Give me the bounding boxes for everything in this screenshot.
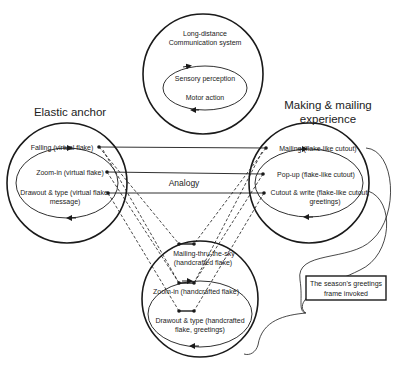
right-circle: Making & mailing experience Mailing (fla… <box>249 99 372 243</box>
callout-line1: The season's greetings <box>310 280 383 288</box>
right-item-cutout: Cutout & write (flake-like cutout, <box>271 189 370 197</box>
bottom-circle: Mailing-thru-the-sky (handcrafted flake)… <box>142 241 258 357</box>
left-circle: Elastic anchor Falling (virtual flake) Z… <box>7 106 127 243</box>
bottom-item-drawout: Drawout & type (handcrafted <box>155 317 244 325</box>
bottom-node-drawout-icon <box>177 309 196 313</box>
left-item-drawout: Drawout & type (virtual flake, <box>20 189 110 197</box>
top-title-line2: Communication system <box>169 39 242 47</box>
motor-action-label: Motor action <box>186 94 225 101</box>
right-item-popup: Pop-up (flake-like cutout) <box>277 171 355 179</box>
bottom-item-mailing: Mailing-thru-the-sky <box>173 250 235 258</box>
elastic-anchor-heading: Elastic anchor <box>34 106 106 118</box>
right-item-cutout-cont: greetings) <box>309 198 340 206</box>
sensory-perception-label: Sensory perception <box>175 75 235 83</box>
analogy-label: Analogy <box>169 178 200 188</box>
callout-box: The season's greetings frame invoked <box>306 276 386 300</box>
dashed-mapping-lines <box>99 147 266 311</box>
top-circle: Long-distance Communication system Senso… <box>143 14 263 134</box>
left-item-falling: Falling (virtual flake) <box>31 144 94 152</box>
left-item-drawout-cont: message) <box>50 198 81 206</box>
making-mailing-heading-line1: Making & mailing <box>284 99 372 111</box>
right-item-mailing: Mailing (flake-like cutout) <box>279 145 356 153</box>
bottom-item-drawout-cont: flake, greetings) <box>175 326 225 334</box>
callout-line2: frame invoked <box>324 290 368 297</box>
bottom-item-mailing-cont: (handcrafted flake) <box>174 259 232 267</box>
top-title-line1: Long-distance <box>183 30 227 38</box>
left-item-zoom-in: Zoom-in (virtual flake) <box>36 169 104 177</box>
loop-arrow-top-icon <box>183 66 189 67</box>
diagram-canvas: Long-distance Communication system Senso… <box>0 0 397 367</box>
